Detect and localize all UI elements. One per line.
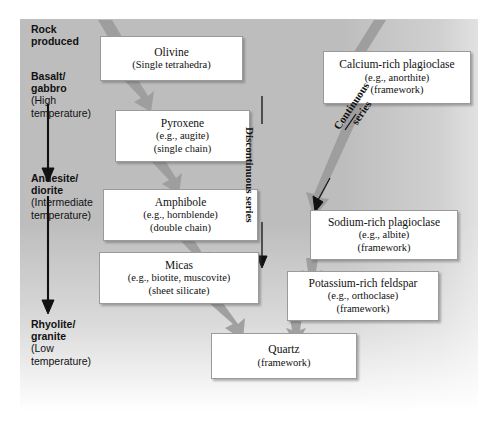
rock-entry-basalt-gabbro: Basalt/ gabbro (High temperature): [31, 70, 91, 119]
mineral-subtitle-2: (double chain): [150, 222, 211, 234]
mineral-title: Micas: [165, 259, 193, 273]
rock-name-line1: Basalt/: [31, 70, 91, 82]
mineral-subtitle-1: (framework): [257, 357, 310, 369]
rock-name-line1: Rhyolite/: [31, 318, 91, 330]
rock-produced-header: Rock produced: [31, 23, 79, 47]
rock-produced-line2: produced: [31, 35, 79, 47]
rock-name-line2: diorite: [31, 184, 93, 196]
mineral-box-pyroxene: Pyroxene (e.g., augite) (single chain): [115, 110, 250, 162]
mineral-subtitle-1: (Single tetrahedra): [132, 59, 210, 71]
rock-name-line1: Andesite/: [31, 172, 93, 184]
mineral-box-calcium-rich-plagioclase: Calcium-rich plagioclase (e.g., anorthit…: [323, 51, 471, 104]
mineral-subtitle-2: (framework): [357, 242, 410, 254]
rock-temp-line2: temperature): [31, 107, 91, 119]
rock-name-line2: gabbro: [31, 82, 91, 94]
rock-entry-rhyolite-granite: Rhyolite/ granite (Low temperature): [31, 318, 91, 367]
discontinuous-series-label: Discontinuous series: [244, 127, 256, 223]
mineral-title: Amphibole: [155, 196, 207, 210]
rock-temp-line1: (Low: [31, 342, 91, 354]
mineral-title: Pyroxene: [161, 117, 204, 131]
mineral-subtitle-1: (e.g., hornblende): [143, 209, 218, 221]
rock-name-line2: granite: [31, 330, 91, 342]
mineral-box-potassium-rich-feldspar: Potassium-rich feldspar (e.g., orthoclas…: [287, 271, 439, 321]
mineral-subtitle-1: (e.g., orthoclase): [328, 290, 399, 302]
mineral-subtitle-1: (e.g., anorthite): [365, 72, 430, 84]
mineral-box-micas: Micas (e.g., biotite, muscovite) (sheet …: [99, 252, 259, 304]
rock-temp-line2: temperature): [31, 355, 91, 367]
mineral-subtitle-2: (framework): [336, 303, 389, 315]
mineral-box-sodium-rich-plagioclase: Sodium-rich plagioclase (e.g., albite) (…: [310, 210, 458, 260]
mineral-title: Sodium-rich plagioclase: [328, 216, 440, 230]
rock-temp-line1: (High: [31, 94, 91, 106]
mineral-subtitle-1: (e.g., augite): [156, 130, 209, 142]
mineral-subtitle-2: (sheet silicate): [149, 285, 210, 297]
mineral-title: Olivine: [154, 46, 189, 60]
rock-temp-line2: temperature): [31, 209, 93, 221]
mineral-box-olivine: Olivine (Single tetrahedra): [100, 36, 243, 81]
mineral-title: Quartz: [268, 343, 299, 357]
rock-entry-andesite-diorite: Andesite/ diorite (Intermediate temperat…: [31, 172, 93, 221]
mineral-subtitle-1: (e.g., albite): [359, 229, 410, 241]
rock-temp-line1: (Intermediate: [31, 196, 93, 208]
mineral-title: Calcium-rich plagioclase: [339, 58, 454, 72]
mineral-subtitle-1: (e.g., biotite, muscovite): [128, 272, 231, 284]
mineral-subtitle-2: (single chain): [154, 143, 211, 155]
mineral-box-quartz: Quartz (framework): [211, 333, 357, 379]
mineral-box-amphibole: Amphibole (e.g., hornblende) (double cha…: [103, 189, 258, 241]
rock-produced-line1: Rock: [31, 23, 79, 35]
mineral-title: Potassium-rich feldspar: [309, 277, 418, 291]
bowens-reaction-series-diagram: Rock produced Basalt/ gabbro (High tempe…: [0, 0, 501, 424]
